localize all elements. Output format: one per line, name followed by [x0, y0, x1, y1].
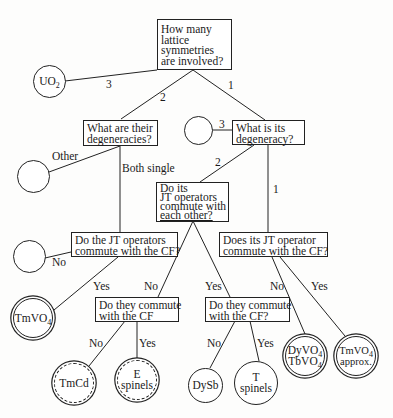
edge-label-both-single: Both single	[122, 162, 175, 174]
edge-label-jt-cf-no: No	[52, 256, 66, 268]
box-line: Does its JT operator	[223, 235, 324, 246]
leaf-tmcd: TmCd	[54, 363, 94, 403]
edge-label-right-yes: Yes	[257, 337, 274, 349]
leaf-label-line: approx.	[340, 356, 372, 367]
leaf-label: TmVO4	[15, 313, 52, 324]
question-jt-operators-commute-cf: Do the JT operators commute with the CF?	[71, 232, 178, 257]
edge-label-left-yes: Yes	[139, 337, 156, 349]
edge-label-degeneracy-2: 2	[215, 156, 221, 168]
edge-label-each-other-no: No	[144, 280, 158, 292]
leaf-label: DySb	[192, 380, 218, 391]
box-line: Do they commute	[209, 300, 286, 311]
edge-label-its-jt-yes: Yes	[311, 280, 328, 292]
edge-label-degeneracy-1: 1	[273, 183, 279, 195]
leaf-label: UO2	[39, 76, 60, 87]
box-line: each other?	[160, 211, 225, 220]
leaf-dysb: DySb	[188, 368, 223, 403]
leaf-uo2: UO2	[33, 65, 66, 98]
box-line: with the CF?	[209, 311, 286, 322]
box-line: with the CF	[99, 311, 175, 322]
leaf-label: TmCd	[59, 378, 88, 389]
question-jt-commute-each-other: Do its JT operators commute with each ot…	[156, 182, 229, 222]
question-its-jt-operator-commute-cf: Does its JT operator commute with the CF…	[219, 232, 328, 257]
box-line: Do they commute	[99, 300, 175, 311]
question-lattice-symmetries: How many lattice symmetries are involved…	[157, 19, 232, 70]
box-line: are involved?	[161, 56, 228, 67]
edge-label-right-no: No	[207, 337, 221, 349]
leaf-label-line: spinels	[240, 383, 272, 394]
question-degeneracy: What is its degeneracy?	[232, 120, 305, 145]
edge-label-left-no: No	[89, 337, 103, 349]
box-line: What is its	[236, 123, 301, 134]
edge-label-root-2: 2	[160, 91, 166, 103]
leaf-empty-degeneracy-3	[184, 116, 213, 145]
edge-label-degeneracy-3: 3	[219, 118, 225, 130]
box-line: Do the JT operators	[75, 235, 174, 246]
edge-label-its-jt-no: No	[270, 280, 284, 292]
box-line: commute with the CF?	[75, 246, 174, 257]
box-line: symmetries	[161, 45, 228, 56]
leaf-tmvo4-approx: TmVO4 approx.	[336, 336, 376, 376]
box-line: commute with the CF?	[223, 246, 324, 257]
edge-label-jt-cf-yes: Yes	[93, 280, 110, 292]
edge-label-other: Other	[52, 150, 78, 162]
leaf-dyvo4-tbvo4: DyVO4 TbVO4	[285, 336, 325, 376]
leaf-t-spinels: T spinels	[234, 361, 278, 405]
leaf-label-line: TbVO4	[288, 356, 321, 367]
leaf-empty-other	[17, 160, 50, 193]
question-degeneracies: What are their degeneracies?	[83, 120, 158, 146]
leaf-label-line: TmVO4	[339, 345, 373, 356]
edge-label-root-3: 3	[106, 78, 112, 90]
leaf-e-spinels: E spinels	[117, 360, 157, 400]
box-line: degeneracy?	[236, 134, 301, 145]
leaf-label-line: spinels	[121, 380, 153, 391]
question-they-commute-cf-right: Do they commute with the CF?	[205, 297, 290, 322]
leaf-empty-no	[13, 240, 46, 273]
decision-tree-diagram: How many lattice symmetries are involved…	[0, 0, 393, 418]
box-line: What are their	[87, 123, 154, 134]
box-line: degeneracies?	[87, 134, 154, 145]
question-they-commute-cf-left: Do they commute with the CF	[95, 297, 179, 322]
edge-label-root-1: 1	[228, 79, 234, 91]
box-line: How many	[161, 24, 228, 35]
edge-label-each-other-yes: Yes	[205, 280, 222, 292]
leaf-tmvo4: TmVO4	[13, 298, 53, 338]
